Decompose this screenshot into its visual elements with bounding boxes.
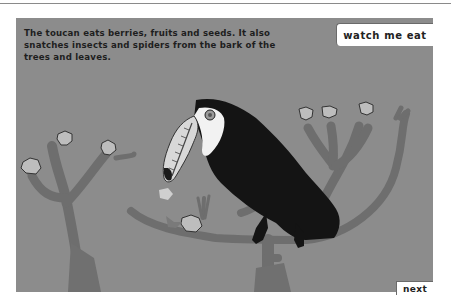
insect — [159, 188, 173, 200]
top-divider — [0, 3, 451, 4]
caption-line-2: snatches insects and spiders from the ba… — [24, 39, 324, 51]
next-button[interactable]: next — [396, 281, 433, 295]
upper-right-berries — [299, 102, 373, 120]
trunk-base — [68, 243, 101, 292]
toucan-scene: The toucan eats berries, fruits and seed… — [16, 18, 433, 292]
caption-line-3: trees and leaves. — [24, 51, 324, 63]
lower-trunk — [254, 263, 291, 292]
watch-me-eat-button[interactable]: watch me eat — [336, 23, 433, 46]
caption-text: The toucan eats berries, fruits and seed… — [24, 27, 324, 63]
caption-line-1: The toucan eats berries, fruits and seed… — [24, 27, 324, 39]
